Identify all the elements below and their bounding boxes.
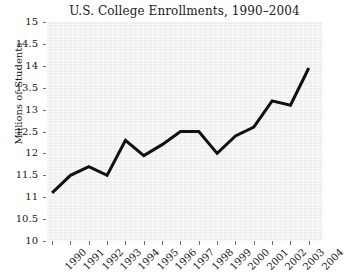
y-axis-tick-label: 10 [0,236,38,246]
y-axis-tick-mark [43,241,46,242]
y-axis-tick-mark [43,44,46,45]
y-axis-tick-mark [43,88,46,89]
y-axis-tick-label: 14 [0,61,38,71]
y-axis-tick-label: 13 [0,105,38,115]
y-axis-tick-label: 14.5 [0,39,38,49]
plot-area [47,22,322,241]
y-axis-tick-mark [43,153,46,154]
y-axis-tick-label: 11.5 [0,170,38,180]
x-axis-tick-mark [107,241,108,245]
x-axis-tick-mark [309,241,310,245]
y-axis-tick-mark [43,175,46,176]
x-axis-tick-mark [272,241,273,245]
y-axis-tick-mark [43,110,46,111]
y-axis-tick-label: 11 [0,192,38,202]
y-axis-tick-label: 15 [0,17,38,27]
y-axis-tick-label: 12.5 [0,127,38,137]
y-axis-tick-mark [43,219,46,220]
x-axis-tick-mark [162,241,163,245]
x-axis-tick-mark [290,241,291,245]
chart-title: U.S. College Enrollments, 1990–2004 [47,4,322,18]
x-axis-tick-mark [180,241,181,245]
x-axis-tick-mark [52,241,53,245]
y-axis-tick-mark [43,66,46,67]
x-axis-tick-mark [144,241,145,245]
x-axis-tick-mark [217,241,218,245]
x-axis-tick-mark [235,241,236,245]
y-axis-tick-label: 12 [0,148,38,158]
y-axis-tick-mark [43,197,46,198]
y-axis-tick-label: 13.5 [0,83,38,93]
x-axis-tick-mark [70,241,71,245]
line-chart-svg [47,22,322,241]
y-axis-tick-mark [43,22,46,23]
data-series-line [52,68,309,193]
y-axis-tick-label: 10.5 [0,214,38,224]
x-axis-tick-mark [254,241,255,245]
x-axis-tick-mark [89,241,90,245]
x-axis-tick-mark [125,241,126,245]
x-axis-tick-mark [199,241,200,245]
y-axis-tick-mark [43,132,46,133]
